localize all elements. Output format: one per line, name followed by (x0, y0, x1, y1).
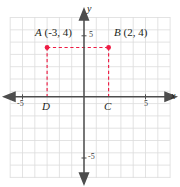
point-b-dot (106, 45, 111, 50)
point-b-name: B (114, 26, 121, 38)
point-c-label: C (104, 101, 111, 112)
point-a-name: A (35, 26, 42, 38)
x-tick-label-negative-five: -5 (17, 100, 24, 108)
x-axis-label: x (171, 91, 175, 101)
coordinate-plane-figure: A (-3, 4) B (2, 4) D C x y -5 5 5 -5 (0, 0, 180, 187)
y-axis-arrow-down (80, 173, 89, 184)
point-b-coords: (2, 4) (123, 26, 147, 38)
point-d-label: D (42, 101, 50, 112)
point-a-label: A (-3, 4) (35, 27, 72, 38)
x-axis-arrow-left (4, 92, 15, 101)
point-b-label: B (2, 4) (114, 27, 147, 38)
point-a-dot (45, 45, 50, 50)
point-a-coords: (-3, 4) (44, 26, 72, 38)
y-tick-label-positive-five: 5 (89, 31, 93, 39)
dashed-segments (47, 48, 109, 97)
y-tick-label-negative-five: -5 (88, 153, 95, 161)
y-axis-label: y (87, 4, 91, 14)
x-tick-label-positive-five: 5 (144, 100, 148, 108)
